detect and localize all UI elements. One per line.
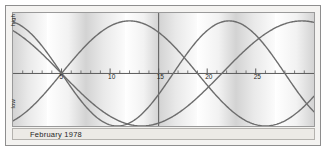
y-axis-low-label: low	[10, 99, 16, 109]
biorhythm-curves	[13, 13, 314, 126]
plot-inner	[13, 13, 314, 126]
y-axis-high-label: high	[10, 14, 16, 26]
chart-plot-area	[12, 12, 315, 127]
figure-frame: high low 510152025 February 1978	[5, 5, 321, 146]
figure-caption: February 1978	[30, 130, 82, 139]
biorhythm-figure-root: high low 510152025 February 1978	[0, 0, 330, 154]
